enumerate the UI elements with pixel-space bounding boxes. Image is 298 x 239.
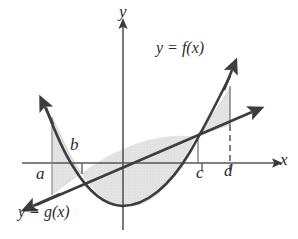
curve-f-label: y = f(x) (156, 40, 204, 56)
x-axis-label: x (280, 151, 288, 168)
point-label-c: c (196, 164, 204, 181)
y-axis-label: y (119, 3, 127, 20)
point-label-d: d (224, 162, 233, 179)
area-between-curves-figure: y x y = f(x) y = g(x) a b c d (0, 0, 298, 239)
curve-g-label: y = g(x) (18, 204, 70, 220)
curve-f-left-arrowhead (45, 107, 53, 124)
point-label-b: b (70, 136, 79, 153)
point-label-a: a (36, 165, 45, 182)
curve-f-right-arrowhead (224, 70, 232, 90)
